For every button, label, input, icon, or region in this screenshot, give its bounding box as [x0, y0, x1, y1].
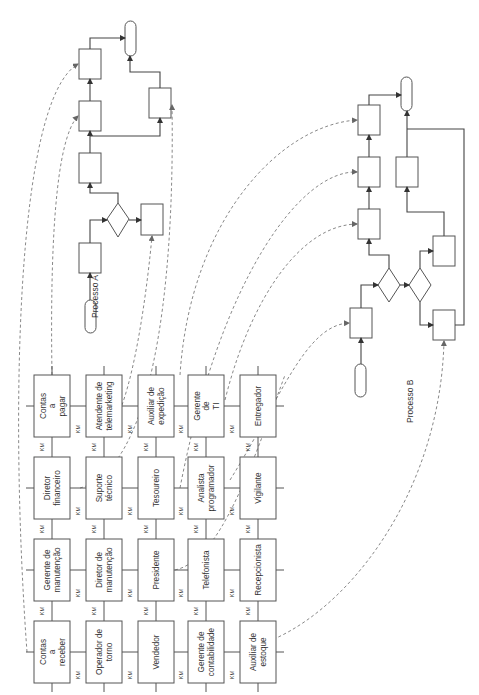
km-connector-label: KM	[127, 506, 133, 515]
process-b-decision-2	[409, 268, 431, 302]
process-a-branch-task	[149, 88, 171, 118]
km-connector-label: KM	[193, 524, 199, 533]
km-connector-label: KM	[178, 670, 184, 679]
km-connector-label: KM	[127, 424, 133, 433]
km-connector-label: KM	[39, 606, 45, 615]
km-connector-label: KM	[245, 442, 251, 451]
role-label: Suportetécnico	[95, 473, 114, 502]
km-connector-label: KM	[178, 588, 184, 597]
process-a-side-task	[141, 204, 163, 235]
process-b-step-2	[358, 209, 380, 239]
role-label: Vigilante	[254, 472, 263, 504]
role-label: Presidente	[152, 550, 161, 590]
process-a-step-1	[79, 243, 101, 273]
process-b-decision-1	[378, 268, 400, 302]
km-connector-label: KM	[143, 524, 149, 533]
km-connector-label: KM	[75, 506, 81, 515]
km-connector-label: KM	[229, 588, 235, 597]
process-b-step-4	[358, 105, 380, 135]
role-label: Recepcionista	[254, 544, 263, 596]
process-b-end-terminal	[401, 77, 412, 111]
process-a: Processo A	[79, 21, 171, 333]
km-connector-label: KM	[75, 588, 81, 597]
km-connector-label: KM	[229, 670, 235, 679]
km-connector-label: KM	[193, 606, 199, 615]
role-label: Auxiliar deestoque	[249, 632, 268, 671]
process-b-branch-upper	[433, 236, 455, 266]
km-connector-label: KM	[143, 442, 149, 451]
process-a-decision	[107, 203, 129, 237]
role-label: Auxiliar deexpedição	[147, 386, 166, 425]
km-connector-label: KM	[245, 524, 251, 533]
process-a-label: Processo A	[90, 275, 100, 318]
km-connector-label: KM	[178, 506, 184, 515]
km-connector-label: KM	[91, 442, 97, 451]
role-label: Vendedor	[152, 634, 161, 669]
process-b: Processo B	[350, 77, 464, 423]
process-b-branch-lower	[433, 310, 455, 340]
role-label: Gerente decontabilidade	[197, 627, 216, 676]
km-connector-label: KM	[229, 424, 235, 433]
process-b-step-1	[350, 308, 372, 338]
km-connector-label: KM	[127, 588, 133, 597]
km-connector-label: KM	[178, 424, 184, 433]
km-connector-label: KM	[193, 442, 199, 451]
process-b-label: Processo B	[405, 379, 415, 423]
km-connector-label: KM	[39, 442, 45, 451]
process-a-step-2	[79, 153, 101, 183]
km-connector-label: KM	[143, 606, 149, 615]
process-a-step-3	[79, 101, 101, 131]
role-label: Tesoureiro	[152, 468, 161, 507]
process-b-start-terminal	[355, 364, 366, 397]
knowledge-links	[19, 64, 444, 652]
role-label: Diretor demanutenção	[95, 547, 114, 593]
role-label: Gerente demanutenção	[43, 547, 62, 593]
km-connector-label: KM	[39, 524, 45, 533]
km-connector-label: KM	[229, 506, 235, 515]
km-connector-label: KM	[75, 670, 81, 679]
km-connector-label: KM	[127, 670, 133, 679]
role-grid: ContasapagarAtendente detelemarketingAux…	[26, 366, 284, 692]
process-knowledge-map-diagram: Processo A Processo B	[0, 0, 479, 695]
km-connector-label: KM	[245, 606, 251, 615]
process-b-step-3	[358, 157, 380, 187]
process-a-step-4	[79, 49, 101, 79]
role-label: Entregador	[254, 385, 263, 426]
process-a-end-terminal	[125, 21, 136, 56]
process-b-merge-task	[396, 157, 418, 187]
km-connector-label: KM	[91, 524, 97, 533]
role-label: Telefonista	[202, 550, 211, 590]
role-label: Atendente detelemarketing	[95, 381, 114, 431]
km-connector-label: KM	[75, 424, 81, 433]
km-connector-label: KM	[91, 606, 97, 615]
